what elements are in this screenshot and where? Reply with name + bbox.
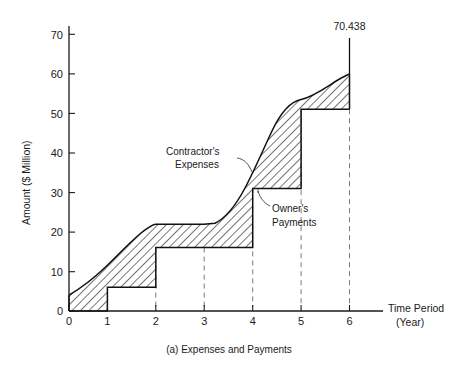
x-tick-label-3: 3 bbox=[201, 315, 207, 327]
owner-payments-label-line1: Owner's bbox=[272, 203, 308, 214]
y-tick-label-60: 60 bbox=[51, 68, 63, 80]
owner-payments-leader bbox=[258, 191, 270, 206]
contractor-expenses-label-line1: Contractor's bbox=[166, 146, 220, 157]
x-axis-title-line1: Time Period bbox=[388, 302, 444, 314]
y-axis-title: Amount ($ Million) bbox=[20, 140, 32, 225]
y-tick-label-50: 50 bbox=[51, 108, 63, 120]
x-tick-label-5: 5 bbox=[298, 315, 304, 327]
x-axis-title-line2: (Year) bbox=[396, 316, 424, 328]
expenses-payments-figure: 70 60 50 40 30 20 10 0 0 1 2 3 4 5 6 Amo… bbox=[0, 0, 459, 376]
y-tick-label-0: 0 bbox=[57, 305, 63, 317]
figure-caption: (a) Expenses and Payments bbox=[166, 344, 292, 355]
x-tick-label-0: 0 bbox=[66, 315, 72, 327]
contractor-expenses-leader bbox=[237, 158, 252, 172]
y-tick-label-40: 40 bbox=[51, 147, 63, 159]
peak-value-label: 70.438 bbox=[333, 20, 365, 32]
x-tick-label-4: 4 bbox=[250, 315, 256, 327]
chart-canvas: 70 60 50 40 30 20 10 0 0 1 2 3 4 5 6 Amo… bbox=[0, 0, 459, 376]
y-tick-label-30: 30 bbox=[51, 187, 63, 199]
x-axis-ticks bbox=[69, 305, 350, 311]
y-axis-ticks bbox=[69, 34, 75, 311]
x-tick-label-2: 2 bbox=[153, 315, 159, 327]
y-tick-label-70: 70 bbox=[51, 29, 63, 41]
contractor-expenses-label-line2: Expenses bbox=[175, 159, 219, 170]
owner-payments-label-line2: Payments bbox=[272, 217, 316, 228]
x-tick-label-6: 6 bbox=[346, 315, 352, 327]
y-tick-label-20: 20 bbox=[51, 226, 63, 238]
x-tick-label-1: 1 bbox=[104, 315, 110, 327]
y-tick-label-10: 10 bbox=[51, 266, 63, 278]
